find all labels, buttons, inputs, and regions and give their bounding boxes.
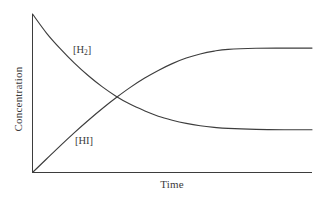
x-axis-label: Time [32,178,312,190]
series-line-hi [33,48,313,172]
plot-area [0,0,332,198]
y-axis-label: Concentration [11,0,25,198]
series-label-hi: [HI] [75,135,93,146]
h2-bracket-open: [H [73,44,84,55]
h2-bracket-close: ] [88,44,92,55]
series-line-h2 [33,14,313,130]
series-label-h2: [H2] [73,44,91,55]
h2-subscript: 2 [84,48,88,57]
kinetics-concentration-chart: Concentration Time [H2] [HI] [0,0,332,198]
